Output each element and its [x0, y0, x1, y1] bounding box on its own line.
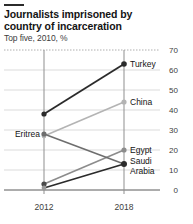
series-label-eritrea: Eritrea	[15, 129, 40, 139]
series-line-eritrea	[44, 134, 124, 164]
datapoint-turkey-2018	[121, 61, 127, 67]
series-label-saudi-arabia-line1: Saudi	[130, 156, 152, 166]
series-label-saudi-arabia-line2: Arabia	[130, 166, 155, 176]
ytick-70: 70	[169, 46, 178, 55]
datapoint-eritrea-2012	[41, 131, 46, 136]
chart-subtitle: Top five, 2010, %	[4, 33, 68, 43]
ytick-40: 40	[169, 106, 178, 115]
chart-plot-area: 70 60 50 40 30 20 10 0 Turkey China Egyp…	[0, 44, 193, 224]
ytick-20: 20	[169, 146, 178, 155]
ytick-30: 30	[169, 126, 178, 135]
series-label-egypt: Egypt	[130, 145, 152, 155]
line-chart-svg: 70 60 50 40 30 20 10 0 Turkey China Egyp…	[0, 44, 193, 224]
ytick-0: 0	[174, 186, 179, 195]
datapoint-egypt-2018	[121, 147, 126, 152]
xtick-2018: 2018	[115, 202, 134, 212]
datapoint-turkey-2012	[41, 111, 46, 116]
datapoint-saudi-arabia-2012	[42, 186, 47, 191]
ytick-50: 50	[169, 86, 178, 95]
xtick-2012: 2012	[35, 202, 54, 212]
ytick-10: 10	[169, 166, 178, 175]
chart-card: Journalists imprisoned by country of inc…	[0, 0, 193, 224]
series-label-china: China	[130, 97, 152, 107]
top-rule	[4, 4, 24, 6]
ytick-60: 60	[169, 66, 178, 75]
series-label-turkey: Turkey	[130, 59, 156, 69]
datapoint-saudi-arabia-2018	[121, 161, 127, 167]
datapoint-china-2018	[121, 99, 126, 104]
page-title: Journalists imprisoned by country of inc…	[4, 9, 154, 32]
